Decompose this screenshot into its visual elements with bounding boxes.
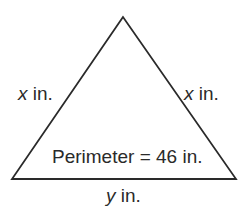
diagram: x in. x in. Perimeter = 46 in. y in. bbox=[0, 0, 250, 222]
base-variable: y bbox=[106, 185, 116, 206]
base-unit: in. bbox=[121, 185, 141, 206]
perimeter-label: Perimeter = 46 in. bbox=[52, 147, 203, 166]
base-label: y in. bbox=[106, 186, 141, 205]
left-side-unit: in. bbox=[33, 83, 53, 104]
left-side-variable: x bbox=[18, 83, 28, 104]
left-side-label: x in. bbox=[18, 84, 53, 103]
right-side-label: x in. bbox=[184, 84, 219, 103]
right-side-unit: in. bbox=[199, 83, 219, 104]
right-side-variable: x bbox=[184, 83, 194, 104]
